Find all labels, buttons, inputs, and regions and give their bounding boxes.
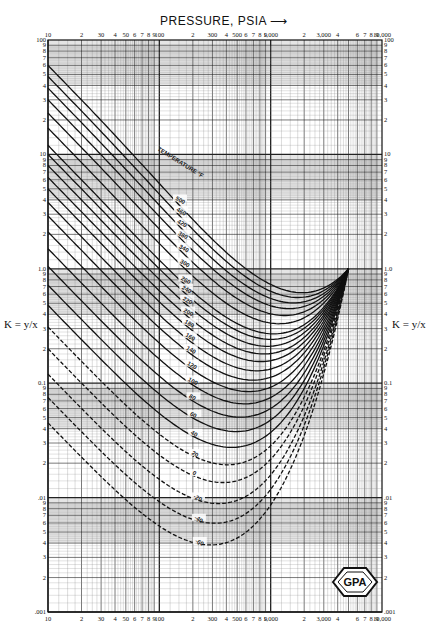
k-value-chart: 1023045067891002300450067891,00023,00046… xyxy=(0,0,431,633)
y-minor-tick-label-left: 3 xyxy=(43,210,46,217)
y-minor-tick-label-left: 4 xyxy=(43,539,47,546)
y-minor-tick-label-right: 3 xyxy=(384,439,387,446)
y-minor-tick-label-left: 2 xyxy=(43,574,46,581)
x-tick-label-bottom: 7 xyxy=(363,615,367,622)
x-tick-label-top: 500 xyxy=(232,31,242,38)
y-minor-tick-label-left: 5 xyxy=(43,299,46,306)
x-tick-label-bottom: 7 xyxy=(252,615,256,622)
x-tick-label-bottom: 100 xyxy=(154,615,164,622)
x-tick-label-top: 2 xyxy=(303,31,306,38)
y-minor-tick-label-right: 5 xyxy=(384,70,387,77)
y-minor-tick-label-left: 4 xyxy=(43,310,47,317)
y-minor-tick-label-right: 3 xyxy=(384,210,387,217)
x-tick-label-bottom: 2 xyxy=(303,615,306,622)
y-minor-tick-label-right: 6 xyxy=(384,290,388,297)
y-minor-tick-label-left: 6 xyxy=(43,290,47,297)
y-tick-label-left: .001 xyxy=(35,608,46,615)
x-tick-label-top: 300 xyxy=(208,31,218,38)
x-tick-label-top: 30 xyxy=(98,31,105,38)
x-tick-label-bottom: 6 xyxy=(133,615,137,622)
y-minor-tick-label-left: 7 xyxy=(43,54,47,61)
x-tick-label-top: 2 xyxy=(80,31,83,38)
y-minor-tick-label-right: 6 xyxy=(384,519,388,526)
x-tick-label-bottom: 30 xyxy=(98,615,105,622)
x-tick-label-top: 7 xyxy=(363,31,367,38)
x-tick-label-bottom: 8 xyxy=(147,615,150,622)
y-minor-tick-label-left: 7 xyxy=(43,168,47,175)
logo-text: GPA xyxy=(343,576,366,588)
y-minor-tick-label-right: 6 xyxy=(384,405,388,412)
x-tick-label-top: 4 xyxy=(336,31,340,38)
x-tick-label-bottom: 4 xyxy=(336,615,340,622)
y-minor-tick-label-right: 3 xyxy=(384,553,387,560)
y-minor-tick-label-right: 4 xyxy=(384,82,388,89)
x-tick-label-bottom: 4 xyxy=(113,615,117,622)
y-minor-tick-label-right: 4 xyxy=(384,539,388,546)
y-minor-tick-label-left: 4 xyxy=(43,82,47,89)
x-tick-label-top: 7 xyxy=(252,31,256,38)
y-minor-tick-label-right: 5 xyxy=(384,185,387,192)
x-tick-label-top: 100 xyxy=(154,31,164,38)
y-minor-tick-label-right: 4 xyxy=(384,425,388,432)
y-minor-tick-label-right: 7 xyxy=(384,397,388,404)
y-minor-tick-label-left: 7 xyxy=(43,397,47,404)
y-minor-tick-label-right: 5 xyxy=(384,528,387,535)
x-tick-label-bottom: 300 xyxy=(208,615,218,622)
y-minor-tick-label-left: 7 xyxy=(43,283,47,290)
y-minor-tick-label-right: 4 xyxy=(384,196,388,203)
x-tick-label-bottom: 50 xyxy=(123,615,130,622)
x-tick-label-bottom: 2 xyxy=(191,615,194,622)
y-minor-tick-label-right: 6 xyxy=(384,61,388,68)
y-minor-tick-label-left: 3 xyxy=(43,439,46,446)
x-tick-label-bottom: 1,000 xyxy=(263,615,278,622)
y-tick-label-right: .001 xyxy=(384,608,395,615)
x-tick-label-top: 8 xyxy=(258,31,261,38)
temperature-curve-200 xyxy=(48,177,349,354)
x-tick-label-bottom: 3,000 xyxy=(316,615,331,622)
y-minor-tick-label-left: 2 xyxy=(43,345,46,352)
x-tick-label-top: 6 xyxy=(133,31,137,38)
x-tick-label-top: 2 xyxy=(191,31,194,38)
y-minor-tick-label-right: 3 xyxy=(384,325,387,332)
y-minor-tick-label-left: 5 xyxy=(43,414,46,421)
x-tick-label-bottom: 6 xyxy=(244,615,248,622)
y-minor-tick-label-left: 2 xyxy=(43,116,46,123)
y-minor-tick-label-left: 5 xyxy=(43,185,46,192)
x-tick-label-top: 6 xyxy=(356,31,360,38)
x-tick-label-top: 4 xyxy=(225,31,229,38)
y-minor-tick-label-right: 5 xyxy=(384,414,387,421)
y-minor-tick-label-left: 2 xyxy=(43,459,46,466)
y-minor-tick-label-right: 7 xyxy=(384,168,388,175)
y-minor-tick-label-left: 4 xyxy=(43,196,47,203)
y-minor-tick-label-left: 6 xyxy=(43,405,47,412)
x-tick-label-bottom: 8 xyxy=(258,615,261,622)
x-tick-label-top: 50 xyxy=(123,31,130,38)
y-minor-tick-label-left: 6 xyxy=(43,519,47,526)
x-tick-label-top: 3,000 xyxy=(316,31,331,38)
x-tick-label-bottom: 10,000 xyxy=(373,615,391,622)
y-minor-tick-label-right: 7 xyxy=(384,511,388,518)
y-minor-tick-label-right: 2 xyxy=(384,345,387,352)
y-minor-tick-label-left: 3 xyxy=(43,553,46,560)
x-tick-label-bottom: 4 xyxy=(225,615,229,622)
y-minor-tick-label-left: 5 xyxy=(43,528,46,535)
x-tick-label-top: 6 xyxy=(244,31,248,38)
x-tick-label-bottom: 10 xyxy=(45,615,52,622)
y-minor-tick-label-left: 6 xyxy=(43,176,47,183)
y-minor-tick-label-left: 3 xyxy=(43,325,46,332)
y-minor-tick-label-right: 2 xyxy=(384,574,387,581)
x-tick-label-top: 8 xyxy=(147,31,150,38)
x-tick-label-bottom: 500 xyxy=(232,615,242,622)
y-minor-tick-label-right: 4 xyxy=(384,310,388,317)
x-tick-label-bottom: 6 xyxy=(356,615,360,622)
y-minor-tick-label-right: 6 xyxy=(384,176,388,183)
y-minor-tick-label-right: 5 xyxy=(384,299,387,306)
y-minor-tick-label-left: 4 xyxy=(43,425,47,432)
y-minor-tick-label-left: 3 xyxy=(43,96,46,103)
x-tick-label-top: 1,000 xyxy=(263,31,278,38)
y-minor-tick-label-left: 6 xyxy=(43,61,47,68)
y-minor-tick-label-right: 7 xyxy=(384,283,388,290)
y-minor-tick-label-right: 2 xyxy=(384,230,387,237)
y-minor-tick-label-left: 5 xyxy=(43,70,46,77)
x-tick-label-bottom: 2 xyxy=(80,615,83,622)
